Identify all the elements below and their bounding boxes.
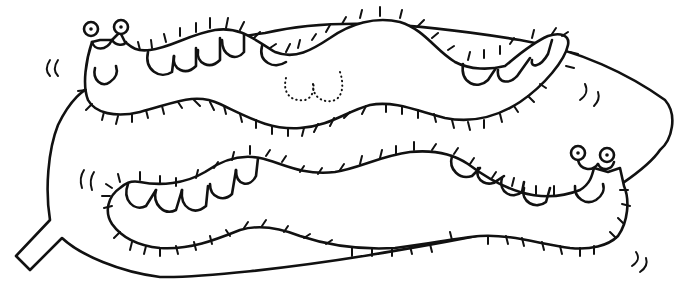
illustration: Two caterpillars on a leaf	[0, 0, 694, 290]
